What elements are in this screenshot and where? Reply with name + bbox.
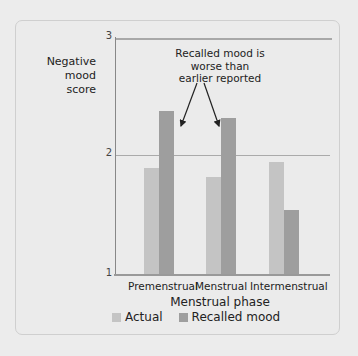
arrow-menstrual-icon [204, 83, 219, 126]
x-tick-premenstrual: Premenstrual [128, 280, 190, 292]
legend-label-actual: Actual [125, 310, 163, 324]
legend: Actual Recalled mood [112, 310, 280, 324]
x-tick-intermenstrual: Intermenstrual [250, 280, 316, 292]
legend-label-recalled: Recalled mood [192, 310, 281, 324]
legend-swatch-recalled-icon [179, 313, 188, 322]
arrow-premenstrual-icon [181, 83, 197, 126]
x-tick-menstrual: Menstrual [195, 280, 245, 292]
x-axis-label: Menstrual phase [150, 295, 290, 309]
legend-swatch-actual-icon [112, 313, 121, 322]
